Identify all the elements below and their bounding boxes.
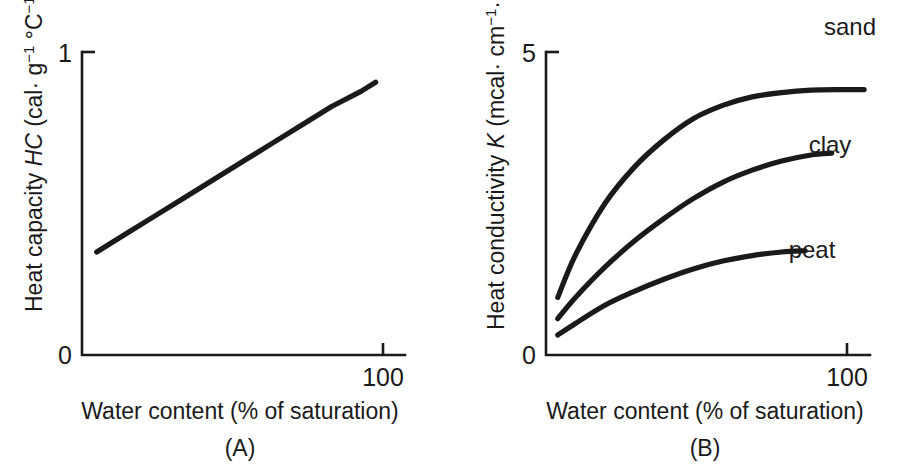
panel-a-axis-lines [82,52,405,355]
figure-root: Heat capacity HC (cal· g−1 °C−1) 1 0 100… [0,0,924,468]
panel-a-ytick-top-label: 1 [58,39,72,67]
panel-b-ytick-bottom-label: 0 [522,341,536,369]
panel-a: Heat capacity HC (cal· g−1 °C−1) 1 0 100… [0,0,462,468]
panel-b-curve-label-peat: peat [789,236,836,263]
panel-b-curve-label-sand: sand [824,13,876,40]
panel-a-y-title-units-mid: °C [21,13,47,45]
panel-b-plot: Heat conductivity K (mcal· cm−1· °C−1) 5… [462,0,924,468]
panel-b-x-axis-title: Water content (% of saturation) [546,398,863,424]
panel-b-ytick-top-label: 5 [522,39,536,67]
panel-a-y-title-prefix: Heat capacity [21,166,47,312]
panel-a-data-line-heat-capacity [97,82,376,252]
panel-a-x-axis-title: Water content (% of saturation) [81,398,398,424]
panel-b-y-title-prefix: Heat conductivity [483,148,509,330]
panel-a-y-title-symbol: HC [21,133,47,167]
panel-a-y-axis-title: Heat capacity HC (cal· g−1 °C−1) [20,0,47,312]
panel-b-y-axis-title: Heat conductivity K (mcal· cm−1· °C−1) [482,0,509,330]
panel-b: Heat conductivity K (mcal· cm−1· °C−1) 5… [462,0,924,468]
panel-a-plot: Heat capacity HC (cal· g−1 °C−1) 1 0 100… [0,0,462,468]
panel-a-y-title-exp2: −1 [20,0,37,13]
panel-a-y-title-exp1: −1 [20,46,37,63]
panel-b-caption: (B) [690,435,721,461]
panel-b-y-title-units-open: (mcal· cm [483,26,509,133]
panel-b-xtick-100-label: 100 [826,363,868,391]
panel-b-y-title-units-mid: · °C [483,0,509,9]
panel-b-curve-label-clay: clay [809,131,852,158]
panel-a-y-title-units-open: (cal· g [21,63,47,133]
panel-b-y-title-exp1: −1 [482,9,499,26]
panel-b-data-curve-peat [558,251,805,335]
panel-a-caption: (A) [225,435,256,461]
panel-a-xtick-100-label: 100 [362,363,404,391]
panel-a-ytick-bottom-label: 0 [58,341,72,369]
